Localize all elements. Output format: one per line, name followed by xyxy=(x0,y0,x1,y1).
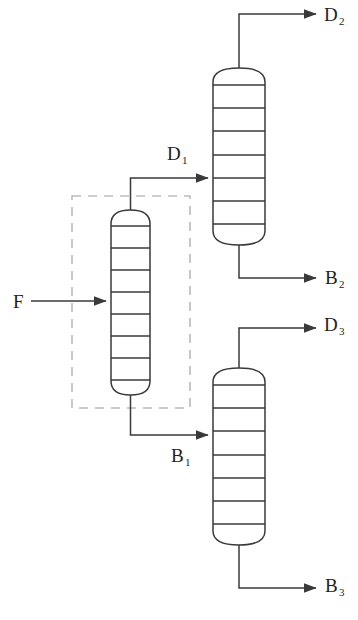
column-1-shell xyxy=(111,210,150,395)
distillate-2-subscript: 2 xyxy=(339,15,345,27)
bottoms-2-subscript: 2 xyxy=(339,278,345,290)
column-2-shell xyxy=(213,68,265,245)
bottoms-1-stream-line xyxy=(131,395,209,435)
column-2-group xyxy=(213,68,265,245)
bottoms-3-stream-line xyxy=(239,545,316,588)
distillate-3-subscript: 3 xyxy=(339,325,345,337)
flowsheet-canvas xyxy=(0,0,358,620)
bottoms-2-label: B2 xyxy=(325,268,344,287)
column-3-shell xyxy=(213,368,265,545)
distillate-1-stream-line xyxy=(131,178,209,210)
distillate-1-label: D1 xyxy=(167,144,187,163)
column-3-group xyxy=(213,368,265,545)
bottoms-1-subscript: 1 xyxy=(185,456,191,468)
distillate-2-stream-line xyxy=(239,14,316,68)
feed-label: F xyxy=(13,292,24,311)
bottoms-3-subscript: 3 xyxy=(339,586,345,598)
distillate-3-stream-line xyxy=(239,328,316,368)
column-1-group xyxy=(111,210,150,395)
bottoms-3-label: B3 xyxy=(325,576,344,595)
distillate-2-label: D2 xyxy=(324,5,344,24)
process-flow-diagram: F D1 D2 B2 D3 B1 B3 xyxy=(0,0,358,620)
distillate-1-subscript: 1 xyxy=(182,154,188,166)
bottoms-2-stream-line xyxy=(239,245,316,278)
distillate-3-label: D3 xyxy=(324,315,344,334)
bottoms-1-label: B1 xyxy=(171,446,190,465)
